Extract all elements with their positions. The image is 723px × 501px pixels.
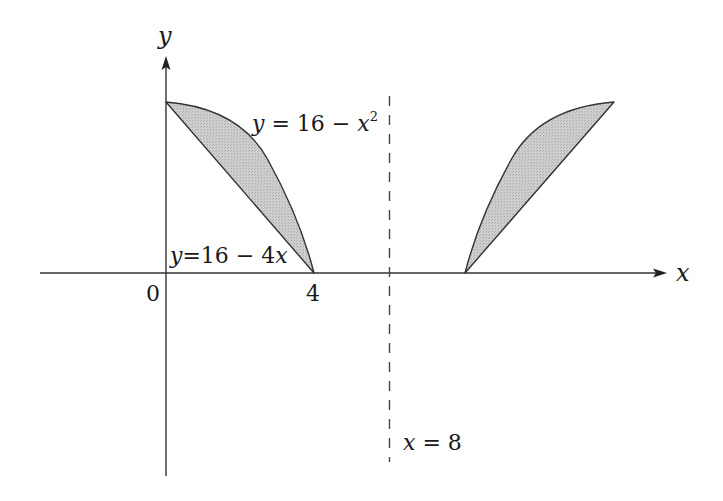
reflected-region (465, 102, 614, 273)
y-axis-label: y (157, 22, 172, 50)
line-label: y=16 − 4x (169, 243, 288, 268)
diagram: y x 0 4 y = 16 − x2 y=16 − 4x x = 8 (0, 0, 723, 501)
parabola-equation: y = 16 − x2 (251, 109, 378, 136)
axis-of-revolution-label: x = 8 (403, 430, 462, 455)
x-axis (40, 269, 667, 278)
x-axis-label: x (676, 259, 690, 287)
origin-label: 0 (146, 281, 160, 306)
parabola-label: y = 16 − x2 (251, 109, 378, 136)
line-equation: y=16 − 4x (169, 243, 288, 268)
x-tick-label-4: 4 (306, 281, 320, 306)
